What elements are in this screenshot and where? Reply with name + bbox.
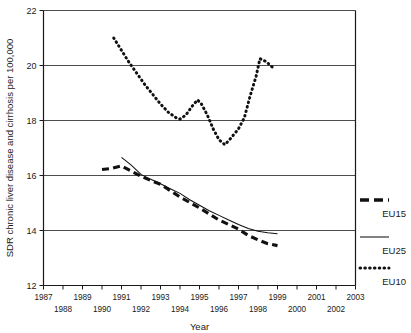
y-tick-label: 14 xyxy=(26,226,36,236)
series-line-eu15 xyxy=(102,166,278,246)
legend-label-eu15: EU15 xyxy=(382,208,406,219)
x-tick-label: 1997 xyxy=(229,293,248,302)
series-line-eu10 xyxy=(114,38,274,145)
y-axis-title-text: SDR chronic liver disease and cirrhosis … xyxy=(4,39,15,258)
x-axis-ticks: 1987198919911993199519971999200120031988… xyxy=(34,286,365,314)
x-tick-label: 2001 xyxy=(307,293,326,302)
x-tick-label: 1998 xyxy=(249,305,268,314)
chart-container: 121416182022 198719891991199319951997199… xyxy=(0,0,411,333)
y-tick-label: 20 xyxy=(26,61,36,71)
y-tick-label: 12 xyxy=(26,281,36,291)
x-tick-label: 1999 xyxy=(268,293,287,302)
x-tick-label: 1993 xyxy=(151,293,170,302)
legend-label-eu25: EU25 xyxy=(382,245,406,256)
plot-frame xyxy=(44,11,356,286)
x-tick-label: 1991 xyxy=(112,293,131,302)
x-tick-label: 1989 xyxy=(73,293,92,302)
y-tick-label: 16 xyxy=(26,171,36,181)
line-chart-figure: 121416182022 198719891991199319951997199… xyxy=(0,0,411,333)
x-tick-label: 1994 xyxy=(171,305,190,314)
x-tick-label: 1996 xyxy=(210,305,229,314)
grid-lines xyxy=(44,11,356,231)
x-tick-label: 1995 xyxy=(190,293,209,302)
x-tick-label: 1992 xyxy=(132,305,151,314)
x-tick-label: 2002 xyxy=(327,305,346,314)
y-axis-title: SDR chronic liver disease and cirrhosis … xyxy=(4,39,15,258)
y-tick-label: 18 xyxy=(26,116,36,126)
x-tick-label: 1987 xyxy=(34,293,53,302)
data-series-group xyxy=(102,38,278,246)
series-line-eu25 xyxy=(122,157,278,233)
y-tick-label: 22 xyxy=(26,6,36,16)
x-axis-title-text: Year xyxy=(190,321,209,332)
legend-label-eu10: EU10 xyxy=(382,276,406,287)
legend: EU15EU25EU10 xyxy=(360,200,406,287)
x-tick-label: 1990 xyxy=(93,305,112,314)
x-tick-label: 2003 xyxy=(346,293,365,302)
x-tick-label: 2000 xyxy=(288,305,307,314)
y-axis-ticks: 121416182022 xyxy=(26,6,43,291)
x-axis-title: Year xyxy=(190,321,209,332)
x-tick-label: 1988 xyxy=(54,305,73,314)
